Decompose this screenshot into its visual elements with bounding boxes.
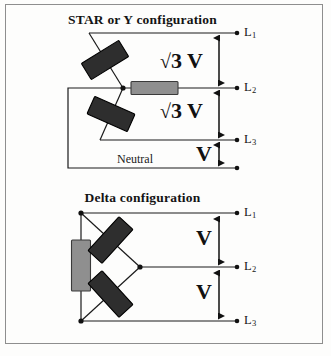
delta-voltage-l2-l3-text: V bbox=[196, 279, 212, 304]
delta-label-l1-sub: 1 bbox=[252, 210, 257, 220]
star-configuration-title: STAR or Y configuration bbox=[0, 12, 285, 28]
star-label-l3-name: L bbox=[244, 132, 252, 146]
delta-label-l3-sub: 3 bbox=[252, 318, 257, 328]
star-label-l3-sub: 3 bbox=[252, 137, 257, 147]
star-configuration-group bbox=[68, 31, 239, 171]
star-voltage-l1-l2: √3 V bbox=[160, 50, 203, 72]
delta-resistor-upper bbox=[88, 217, 133, 264]
star-label-l1: L1 bbox=[244, 25, 256, 40]
star-terminal-l1 bbox=[235, 31, 240, 36]
delta-configuration-group bbox=[72, 210, 240, 323]
star-label-l1-name: L bbox=[244, 25, 252, 39]
delta-terminal-l2 bbox=[235, 265, 240, 270]
delta-resistor-lower bbox=[88, 271, 133, 318]
star-resistor-2 bbox=[131, 82, 178, 95]
delta-label-l1-name: L bbox=[244, 205, 252, 219]
star-terminal-neutral bbox=[235, 166, 240, 171]
delta-terminal-l1 bbox=[235, 211, 240, 216]
delta-terminal-l3 bbox=[235, 319, 240, 324]
star-voltage-l2-l3-text: 3 V bbox=[171, 98, 203, 123]
sqrt-icon: √ bbox=[160, 50, 171, 72]
delta-label-l3: L3 bbox=[244, 313, 256, 328]
delta-node-bottom-left bbox=[78, 318, 83, 323]
delta-voltage-l1-l2-text: V bbox=[196, 225, 212, 250]
star-voltage-l2-l3: √3 V bbox=[160, 100, 203, 122]
delta-voltage-l1-l2: V bbox=[196, 227, 212, 249]
delta-label-l1: L1 bbox=[244, 205, 256, 220]
sqrt-icon: √ bbox=[160, 100, 171, 122]
delta-resistor-left bbox=[72, 240, 91, 291]
star-label-l1-sub: 1 bbox=[252, 30, 257, 40]
figure-root: STAR or Y configuration Delta configurat… bbox=[0, 0, 331, 356]
delta-voltage-l2-l3: V bbox=[196, 281, 212, 303]
delta-label-l2: L2 bbox=[244, 259, 256, 274]
delta-configuration-title: Delta configuration bbox=[0, 190, 285, 206]
star-voltage-l3-neutral-text: V bbox=[196, 141, 212, 166]
delta-label-l2-sub: 2 bbox=[252, 264, 257, 274]
star-voltage-l1-l2-text: 3 V bbox=[171, 48, 203, 73]
delta-label-l3-name: L bbox=[244, 313, 252, 327]
star-label-l2-name: L bbox=[244, 80, 252, 94]
star-neutral-label: Neutral bbox=[117, 152, 153, 167]
star-voltage-l3-neutral: V bbox=[196, 143, 212, 165]
delta-label-l2-name: L bbox=[244, 259, 252, 273]
star-centre-node bbox=[120, 85, 125, 90]
delta-node-top-left bbox=[78, 210, 83, 215]
star-resistor-1 bbox=[81, 40, 128, 79]
star-label-l2-sub: 2 bbox=[252, 85, 257, 95]
star-terminal-l2 bbox=[235, 86, 240, 91]
star-resistor-3 bbox=[87, 96, 135, 131]
star-label-l2: L2 bbox=[244, 80, 256, 95]
star-terminal-l3 bbox=[235, 138, 240, 143]
delta-node-apex bbox=[137, 264, 142, 269]
star-label-l3: L3 bbox=[244, 132, 256, 147]
